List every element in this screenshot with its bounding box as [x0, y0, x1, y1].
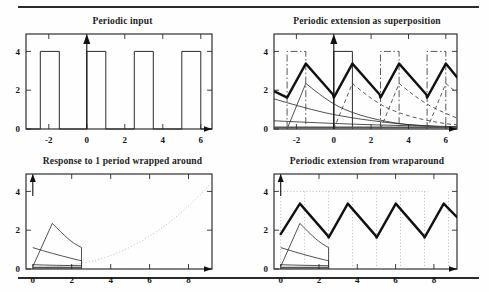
x-tick-label: -2	[293, 135, 301, 145]
x-tick-label: 4	[161, 135, 166, 145]
origin-arrow-icon	[30, 174, 36, 196]
y-tick-label: 2	[264, 225, 269, 235]
y-axis-ticks	[274, 51, 457, 129]
plot-periodic-input: 0 2 4 -2 0 2 4 6	[0, 26, 245, 146]
y-tick-label: 0	[16, 124, 21, 134]
x-tick-label: 2	[123, 135, 128, 145]
y-tick-label: 2	[264, 85, 269, 95]
x-tick-label: 6	[393, 275, 398, 285]
x-axis-ticks	[296, 34, 445, 129]
axis-end-arrow-icon	[449, 266, 457, 272]
y-tick-label: 4	[264, 187, 269, 197]
top-rule	[18, 6, 479, 8]
y-axis-ticks	[26, 191, 212, 269]
y-tick-label: 4	[264, 47, 269, 57]
x-tick-label: 6	[147, 275, 152, 285]
origin-arrow-icon	[278, 174, 284, 196]
plot-response-one-period: 0 2 4 0 2 4 6 8	[0, 166, 245, 286]
plot-superposition: 0 2 4 -2 0 2 4 6	[245, 26, 489, 146]
y-axis-ticks	[26, 51, 212, 129]
x-tick-label: 4	[355, 275, 360, 285]
periodic-steady-state-trace	[281, 204, 457, 238]
x-tick-label: 4	[108, 275, 113, 285]
y-tick-label: 0	[16, 264, 21, 274]
x-tick-label: -2	[45, 135, 53, 145]
faint-guide	[35, 182, 212, 268]
y-tick-label: 0	[264, 124, 269, 134]
component-curve	[274, 121, 457, 127]
axes-frame	[274, 174, 457, 269]
x-tick-label: 4	[406, 135, 411, 145]
y-tick-label: 4	[16, 187, 21, 197]
y-tick-label: 2	[16, 85, 21, 95]
component-curve	[274, 99, 457, 127]
axes-frame	[274, 34, 457, 129]
y-tick-label: 4	[16, 47, 21, 57]
y-tick-label: 0	[264, 264, 269, 274]
x-tick-label: 0	[31, 275, 36, 285]
response-main-curve	[33, 223, 82, 269]
origin-arrow-icon	[83, 34, 90, 129]
x-tick-label: 8	[186, 275, 191, 285]
axes-frame	[26, 34, 212, 129]
figure-page: Periodic input	[0, 0, 489, 292]
x-tick-label: 2	[369, 135, 374, 145]
panel-title-response-one-period: Response to 1 period wrapped around	[0, 156, 245, 166]
axis-end-arrow-icon	[204, 266, 212, 272]
x-tick-label: 8	[432, 275, 437, 285]
plot-wraparound: 0 2 4 0 2 4 6 8	[245, 166, 489, 286]
y-tick-label: 2	[16, 225, 21, 235]
x-axis-ticks	[49, 34, 201, 129]
x-tick-label: 6	[199, 135, 204, 145]
panel-periodic-extension-superposition: Periodic extension as superposition	[245, 16, 489, 146]
square-wave-trace	[26, 51, 212, 129]
x-tick-label: 0	[278, 275, 283, 285]
x-tick-label: 2	[69, 275, 74, 285]
x-tick-label: 6	[444, 135, 449, 145]
panel-periodic-input: Periodic input	[0, 16, 245, 146]
axis-end-arrow-icon	[204, 126, 212, 132]
panel-title-superposition: Periodic extension as superposition	[245, 16, 489, 26]
panel-periodic-extension-wraparound: Periodic extension from wraparound	[245, 156, 489, 286]
axes-frame	[26, 174, 212, 269]
panel-response-one-period: Response to 1 period wrapped around	[0, 156, 245, 286]
panel-title-periodic-input: Periodic input	[0, 16, 245, 26]
period-grid	[281, 191, 449, 269]
panel-title-wraparound: Periodic extension from wraparound	[245, 156, 489, 166]
x-tick-label: 0	[332, 135, 337, 145]
x-tick-label: 0	[85, 135, 90, 145]
x-tick-label: 2	[317, 275, 322, 285]
total-response-trace	[274, 64, 457, 98]
